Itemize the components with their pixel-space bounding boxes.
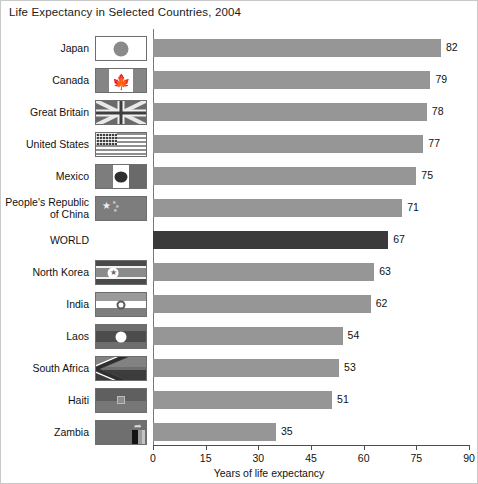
- x-axis-tick-label: 45: [305, 452, 317, 464]
- x-axis-tick: [364, 445, 365, 450]
- bar-value-united-states: 77: [428, 137, 440, 149]
- category-label-india: India: [1, 288, 89, 320]
- category-label-zambia: Zambia: [1, 416, 89, 448]
- bar-zambia: [153, 423, 276, 441]
- bar-value-world: 67: [393, 233, 405, 245]
- x-axis-tick-label: 75: [410, 452, 422, 464]
- category-label-canada: Canada: [1, 64, 89, 96]
- table-row: Haiti 51: [1, 384, 478, 416]
- x-axis-tick: [153, 445, 154, 450]
- category-label-japan: Japan: [1, 32, 89, 64]
- bar-united-states: [153, 135, 423, 153]
- category-label-great-britain: Great Britain: [1, 96, 89, 128]
- table-row: Great Britain 78: [1, 96, 478, 128]
- bar-world: [153, 231, 388, 249]
- flag-north-korea-icon: ★: [95, 260, 147, 285]
- x-axis-tick-label: 90: [463, 452, 475, 464]
- x-axis-tick: [311, 445, 312, 450]
- x-axis-tick-label: 30: [252, 452, 264, 464]
- bar-laos: [153, 327, 343, 345]
- bar-value-zambia: 35: [281, 425, 293, 437]
- table-row: India 62: [1, 288, 478, 320]
- bar-value-india: 62: [376, 297, 388, 309]
- category-label-south-africa: South Africa: [1, 352, 89, 384]
- category-label-china: People's Republic of China: [1, 192, 89, 224]
- bar-value-great-britain: 78: [432, 105, 444, 117]
- x-axis-tick-label: 0: [150, 452, 156, 464]
- table-row: Canada 🍁 79: [1, 64, 478, 96]
- bar-india: [153, 295, 371, 313]
- x-axis-tick-label: 15: [200, 452, 212, 464]
- category-label-united-states: United States: [1, 128, 89, 160]
- x-axis-tick: [469, 445, 470, 450]
- table-row: Mexico 75: [1, 160, 478, 192]
- bar-value-mexico: 75: [421, 169, 433, 181]
- table-row: Japan 82: [1, 32, 478, 64]
- chart-container: Life Expectancy in Selected Countries, 2…: [0, 0, 478, 484]
- table-row: WORLD 67: [1, 224, 478, 256]
- flag-south-africa-icon: [95, 356, 147, 381]
- bar-value-south-africa: 53: [344, 361, 356, 373]
- bar-value-north-korea: 63: [379, 265, 391, 277]
- bar-canada: [153, 71, 430, 89]
- x-axis-tick-label: 60: [358, 452, 370, 464]
- x-axis-title-text: Years of life expectancy: [214, 467, 325, 479]
- bar-japan: [153, 39, 441, 57]
- flag-haiti-icon: [95, 388, 147, 413]
- category-label-laos: Laos: [1, 320, 89, 352]
- x-axis-tick: [206, 445, 207, 450]
- bar-south-africa: [153, 359, 339, 377]
- table-row: South Africa 53: [1, 352, 478, 384]
- bar-value-haiti: 51: [337, 393, 349, 405]
- plot-area: Japan 82 Canada 🍁 79 Great Britain 78: [1, 1, 478, 484]
- bar-great-britain: [153, 103, 427, 121]
- bar-value-laos: 54: [348, 329, 360, 341]
- flag-india-icon: [95, 292, 147, 317]
- bar-value-canada: 79: [435, 73, 447, 85]
- table-row: People's Republic of China ★ ★★★ 71: [1, 192, 478, 224]
- flag-mexico-icon: [95, 164, 147, 189]
- bar-value-japan: 82: [446, 41, 458, 53]
- flag-great-britain-icon: [95, 100, 147, 125]
- bar-haiti: [153, 391, 332, 409]
- flag-laos-icon: [95, 324, 147, 349]
- x-axis-title: Years of life expectancy: [1, 467, 478, 479]
- flag-china-icon: ★ ★★★: [95, 196, 147, 221]
- x-axis-tick: [416, 445, 417, 450]
- table-row: United States 77: [1, 128, 478, 160]
- bar-mexico: [153, 167, 416, 185]
- flag-united-states-icon: [95, 132, 147, 157]
- category-label-haiti: Haiti: [1, 384, 89, 416]
- table-row: Zambia ➦ 35: [1, 416, 478, 448]
- table-row: North Korea ★ 63: [1, 256, 478, 288]
- bar-value-china: 71: [407, 201, 419, 213]
- category-label-mexico: Mexico: [1, 160, 89, 192]
- category-label-world: WORLD: [1, 224, 89, 256]
- bar-china: [153, 199, 402, 217]
- bar-north-korea: [153, 263, 374, 281]
- category-label-north-korea: North Korea: [1, 256, 89, 288]
- x-axis-tick: [258, 445, 259, 450]
- flag-canada-icon: 🍁: [95, 68, 147, 93]
- flag-zambia-icon: ➦: [95, 420, 147, 445]
- flag-japan-icon: [95, 36, 147, 61]
- table-row: Laos 54: [1, 320, 478, 352]
